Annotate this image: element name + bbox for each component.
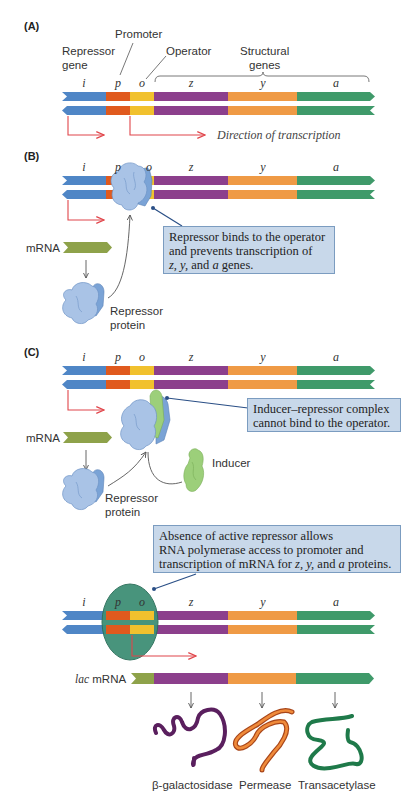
- operon-transcription-arrow: [130, 116, 205, 135]
- promoter-leader-line: [120, 43, 133, 75]
- gene-label-z-b: z: [181, 160, 201, 175]
- gene-label-p: p: [108, 76, 128, 91]
- gene-label-y: y: [253, 76, 273, 91]
- repressor-protein-label-b-line1: Repressor: [110, 304, 163, 318]
- panel-label-b: (B): [24, 150, 39, 162]
- repressor-transcription-arrow-c: [68, 390, 104, 410]
- gene-label-i-d: i: [74, 595, 94, 610]
- callout-repressor-binds: Repressor binds to the operator and prev…: [163, 226, 335, 274]
- free-repressor-icon-b: [63, 283, 104, 324]
- inducer-icon: [184, 449, 204, 492]
- inducer-label: Inducer: [212, 456, 250, 470]
- mrna-label-c: mRNA: [26, 431, 60, 445]
- callout-absence-of-repressor: Absence of active repressor allows RNA p…: [153, 525, 401, 573]
- structural-genes-label-line2: genes: [249, 58, 280, 72]
- dna-panel-b: [62, 176, 375, 199]
- gene-label-i-b: i: [74, 160, 94, 175]
- gene-label-a-b: a: [326, 160, 346, 175]
- protein-label-permease: Permease: [239, 778, 291, 792]
- repressor-transcription-arrow: [68, 116, 104, 135]
- callout-pointer-c: [167, 398, 248, 408]
- inducer-to-complex-arrow: [148, 452, 182, 484]
- repressor-protein-label-c-line1: Repressor: [105, 491, 158, 505]
- repressor-to-complex-arrow: [108, 452, 146, 486]
- repressor-protein-label-b-line2: protein: [110, 318, 145, 332]
- gene-label-y-d: y: [253, 595, 273, 610]
- gene-label-i: i: [74, 76, 94, 91]
- repressor-transcription-arrow-b: [68, 200, 104, 220]
- callout-pointer-b: [153, 208, 182, 226]
- lac-mrna-strand: [131, 673, 374, 684]
- gene-label-o-c: o: [132, 350, 152, 365]
- gene-label-y-c: y: [253, 350, 273, 365]
- repressor-gene-label-line2: gene: [62, 58, 88, 72]
- gene-label-a-c: a: [326, 350, 346, 365]
- transacetylase-protein-icon: [307, 716, 361, 768]
- lac-mrna-label: lac mRNA: [75, 672, 126, 686]
- protein-label-transacetylase: Transacetylase: [298, 778, 376, 792]
- dna-panel-a: [62, 92, 375, 115]
- protein-label-beta-galactosidase: β-galactosidase: [152, 778, 233, 792]
- operator-label: Operator: [166, 44, 211, 58]
- gene-label-i-c: i: [74, 350, 94, 365]
- promoter-label: Promoter: [115, 27, 162, 41]
- repressor-binding-arrow: [108, 215, 130, 298]
- mrna-strand-c: [63, 432, 112, 443]
- dna-panel-c: [62, 366, 375, 389]
- repressor-gene-label-line1: Repressor: [62, 44, 115, 58]
- mrna-strand-b: [63, 242, 112, 253]
- direction-of-transcription-label: Direction of transcription: [217, 128, 341, 143]
- panel-label-a: (A): [24, 20, 39, 32]
- gene-label-a: a: [326, 76, 346, 91]
- gene-label-o-b: o: [139, 160, 159, 175]
- gene-label-p-c: p: [108, 350, 128, 365]
- gene-label-p-d: p: [108, 595, 128, 610]
- free-repressor-icon-c: [63, 469, 104, 510]
- repressor-protein-label-c-line2: protein: [105, 505, 140, 519]
- gene-label-o: o: [132, 76, 152, 91]
- structural-genes-label-line1: Structural: [240, 44, 289, 58]
- gene-label-a-d: a: [326, 595, 346, 610]
- callout-inducer-repressor: Inducer–repressor complex cannot bind to…: [247, 398, 401, 432]
- gene-label-z-d: z: [181, 595, 201, 610]
- gene-label-z: z: [181, 76, 201, 91]
- gene-label-o-d: o: [132, 595, 152, 610]
- gene-label-y-b: y: [253, 160, 273, 175]
- gene-label-z-c: z: [181, 350, 201, 365]
- gene-label-p-b: p: [108, 160, 128, 175]
- beta-galactosidase-protein-icon: [155, 710, 225, 765]
- panel-label-c: (C): [24, 346, 39, 358]
- callout-pointer-d: [154, 574, 196, 589]
- inducer-repressor-complex-icon: [121, 390, 170, 450]
- mrna-label-b: mRNA: [26, 241, 60, 255]
